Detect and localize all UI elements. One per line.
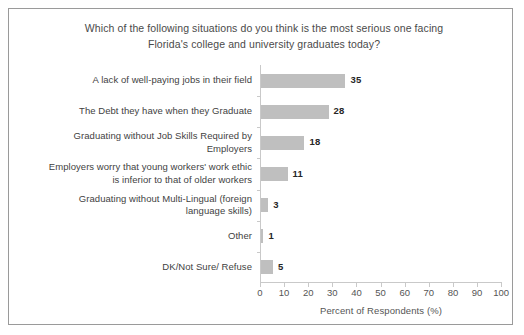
x-axis-tick-label: 70 (424, 287, 435, 298)
category-label: Employers worry that young workers' work… (13, 161, 252, 186)
y-axis-tick (257, 221, 260, 222)
category-label-line: is inferior to that of older workers (13, 174, 252, 187)
chart-title: Which of the following situations do you… (39, 20, 489, 52)
chart-title-line-2: Florida's college and university graduat… (39, 36, 489, 52)
bar-value-label: 3 (273, 199, 278, 210)
category-label: Other (13, 230, 252, 243)
plot-area: 35281811315 (260, 65, 508, 283)
x-axis-tick-labels: 0102030405060708090100 (260, 287, 508, 301)
chart-frame: Which of the following situations do you… (8, 8, 513, 325)
plot-wrapper: A lack of well-paying jobs in their fiel… (9, 65, 512, 297)
category-label-line: Employers worry that young workers' work… (13, 161, 252, 174)
category-label: Graduating without Job Skills Required b… (13, 130, 252, 155)
category-label: DK/Not Sure/ Refuse (13, 261, 252, 274)
x-axis-tick-label: 50 (375, 287, 386, 298)
y-axis-tick (257, 158, 260, 159)
bar-value-label: 35 (350, 74, 361, 85)
bar (261, 260, 273, 274)
category-label-line: A lack of well-paying jobs in their fiel… (13, 74, 252, 87)
y-axis-tick (257, 190, 260, 191)
bar-value-label: 18 (309, 136, 320, 147)
y-axis-tick (257, 96, 260, 97)
category-label-column: A lack of well-paying jobs in their fiel… (13, 65, 256, 283)
category-label-line: Employers (13, 143, 252, 156)
x-axis-tick-label: 20 (303, 287, 314, 298)
category-label: A lack of well-paying jobs in their fiel… (13, 74, 252, 87)
bar-value-label: 11 (293, 168, 303, 179)
category-label-line: language skills) (13, 205, 252, 218)
bar (261, 229, 263, 243)
x-axis-tick-label: 60 (399, 287, 410, 298)
x-axis-tick-label: 0 (257, 287, 262, 298)
x-axis-title: Percent of Respondents (%) (260, 305, 502, 316)
x-axis-tick-label: 30 (327, 287, 338, 298)
bar-value-label: 28 (334, 105, 345, 116)
category-label: Graduating without Multi-Lingual (foreig… (13, 193, 252, 218)
category-label-line: Other (13, 230, 252, 243)
x-axis-tick-label: 90 (472, 287, 483, 298)
bar (261, 105, 329, 119)
category-label: The Debt they have when they Graduate (13, 105, 252, 118)
category-label-line: Graduating without Job Skills Required b… (13, 130, 252, 143)
bar (261, 74, 345, 88)
bar-value-label: 1 (268, 230, 273, 241)
category-label-line: The Debt they have when they Graduate (13, 105, 252, 118)
x-axis-tick-label: 10 (279, 287, 290, 298)
bar-value-label: 5 (278, 261, 283, 272)
chart-title-line-1: Which of the following situations do you… (39, 20, 489, 36)
y-axis-tick (257, 127, 260, 128)
y-axis-tick (257, 252, 260, 253)
bar (261, 167, 288, 181)
bar (261, 136, 304, 150)
bar (261, 198, 268, 212)
category-label-line: Graduating without Multi-Lingual (foreig… (13, 193, 252, 206)
category-label-line: DK/Not Sure/ Refuse (13, 261, 252, 274)
x-axis-tick-label: 100 (493, 287, 509, 298)
x-axis-tick-label: 80 (448, 287, 459, 298)
x-axis-tick-label: 40 (351, 287, 362, 298)
